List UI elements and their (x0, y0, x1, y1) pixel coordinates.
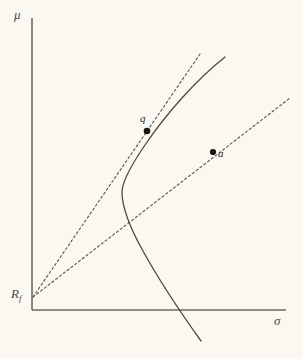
ray-through-a (33, 98, 290, 297)
tangent-line-capital-market-line (33, 54, 200, 297)
mean-variance-frontier-figure: μ σ Rf q a (0, 0, 303, 359)
risk-free-rate-label: Rf (11, 287, 21, 303)
point-label-a: a (218, 148, 224, 159)
point-marker-a (210, 149, 216, 155)
x-axis-label: σ (274, 314, 280, 327)
plot-canvas (0, 0, 303, 359)
risk-free-rate-label-subscript: f (19, 293, 22, 303)
point-marker-q (144, 128, 151, 135)
y-axis-label: μ (14, 8, 21, 21)
point-label-q: q (140, 113, 146, 124)
efficient-frontier-curve (122, 57, 225, 341)
risk-free-rate-label-base: R (11, 286, 19, 301)
